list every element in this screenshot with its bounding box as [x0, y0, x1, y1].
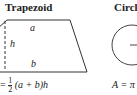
formula-equals: =: [0, 79, 6, 90]
label-h: h: [10, 38, 15, 49]
circle-title: Circle: [114, 1, 137, 13]
label-a: a: [30, 22, 35, 33]
formula-rest: (a + b)h: [15, 79, 48, 90]
trapezoid-area-formula: = 1 2 (a + b)h: [0, 77, 48, 94]
label-b: b: [31, 58, 36, 69]
formula-fraction: 1 2: [8, 77, 12, 94]
circle-area-formula: A = π: [112, 79, 135, 90]
circle-shape: [112, 25, 137, 65]
trapezoid-title: Trapezoid: [5, 1, 52, 13]
